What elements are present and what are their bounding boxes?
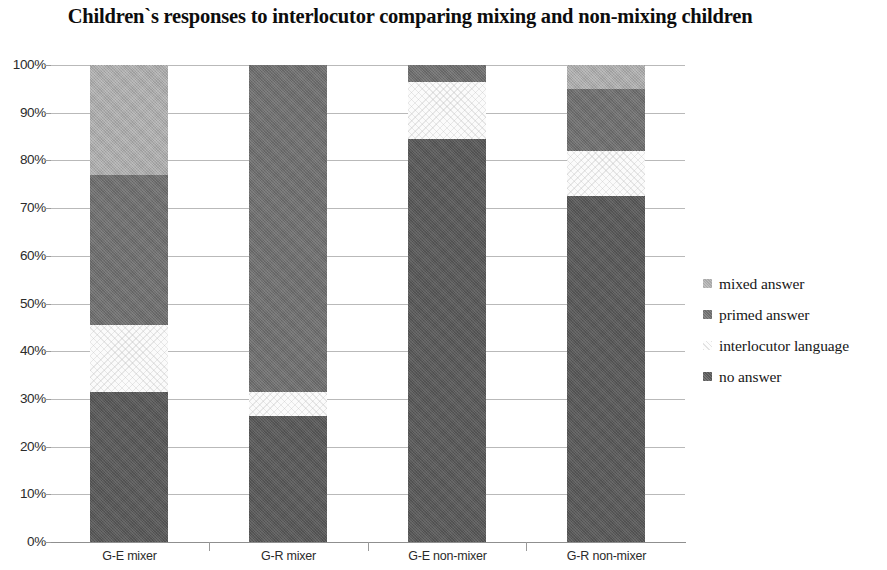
legend-swatch-icon xyxy=(703,341,712,350)
bar-column[interactable] xyxy=(567,65,645,542)
bar-segment-interlocutor-language[interactable] xyxy=(90,325,168,392)
bar-segment-interlocutor-language[interactable] xyxy=(249,392,327,416)
bar-segment-no-answer[interactable] xyxy=(408,139,486,542)
y-axis-tick-label: 0% xyxy=(2,534,46,549)
y-axis-tick-label: 70% xyxy=(2,200,46,215)
legend-swatch-icon xyxy=(703,372,712,381)
x-axis-category-label: G-E mixer xyxy=(50,549,209,569)
chart-legend: mixed answerprimed answerinterlocutor la… xyxy=(703,268,887,392)
legend-label: no answer xyxy=(719,368,781,386)
y-axis-tick xyxy=(45,447,51,448)
bar-segment-mixed-answer[interactable] xyxy=(567,65,645,89)
bar-segment-interlocutor-language[interactable] xyxy=(408,82,486,139)
y-axis-tick-label: 50% xyxy=(2,296,46,311)
x-axis-tick xyxy=(526,542,527,551)
legend-item-no-answer[interactable]: no answer xyxy=(703,361,887,392)
y-axis-tick-label: 10% xyxy=(2,486,46,501)
y-axis-tick xyxy=(45,304,51,305)
y-axis-tick xyxy=(45,208,51,209)
y-axis-tick xyxy=(45,399,51,400)
bar-segment-primed-answer[interactable] xyxy=(249,65,327,392)
plot-area xyxy=(50,65,685,542)
bar-column[interactable] xyxy=(90,65,168,542)
legend-swatch-icon xyxy=(703,310,712,319)
legend-label: primed answer xyxy=(719,306,809,324)
y-axis-tick-label: 40% xyxy=(2,343,46,358)
x-axis-category-label: G-R mixer xyxy=(209,549,368,569)
x-axis-tick xyxy=(368,542,369,551)
x-axis-tick xyxy=(209,542,210,551)
bar-segment-no-answer[interactable] xyxy=(567,196,645,542)
y-axis-tick-label: 90% xyxy=(2,105,46,120)
bar-column[interactable] xyxy=(408,65,486,542)
y-axis-tick xyxy=(45,542,51,543)
x-axis-category-label: G-E non-mixer xyxy=(368,549,527,569)
legend-item-interlocutor-language[interactable]: interlocutor language xyxy=(703,330,887,361)
legend-item-mixed-answer[interactable]: mixed answer xyxy=(703,268,887,299)
legend-label: interlocutor language xyxy=(719,337,849,355)
y-axis-tick xyxy=(45,351,51,352)
y-axis-tick xyxy=(45,256,51,257)
y-axis-tick-label: 80% xyxy=(2,152,46,167)
y-axis-labels: 100%90%80%70%60%50%40%30%20%10%0% xyxy=(0,65,46,543)
y-axis-tick xyxy=(45,494,51,495)
legend-label: mixed answer xyxy=(719,275,804,293)
bar-segment-primed-answer[interactable] xyxy=(90,175,168,325)
bar-segment-primed-answer[interactable] xyxy=(567,89,645,151)
legend-swatch-icon xyxy=(703,279,712,288)
y-axis-tick xyxy=(45,113,51,114)
bar-segment-mixed-answer[interactable] xyxy=(90,65,168,175)
legend-item-primed-answer[interactable]: primed answer xyxy=(703,299,887,330)
y-axis-tick xyxy=(45,65,51,66)
bar-segment-no-answer[interactable] xyxy=(249,416,327,542)
y-axis-tick-label: 100% xyxy=(2,57,46,72)
y-axis-tick-label: 30% xyxy=(2,391,46,406)
bar-segment-primed-answer[interactable] xyxy=(408,65,486,82)
chart-container: Children`s responses to interlocutor com… xyxy=(0,0,887,570)
x-axis-labels: G-E mixerG-R mixerG-E non-mixerG-R non-m… xyxy=(50,549,686,569)
y-axis-tick xyxy=(45,160,51,161)
bar-column[interactable] xyxy=(249,65,327,542)
y-axis-tick-label: 20% xyxy=(2,439,46,454)
y-axis-tick-label: 60% xyxy=(2,248,46,263)
chart-title: Children`s responses to interlocutor com… xyxy=(60,2,760,30)
bar-segment-interlocutor-language[interactable] xyxy=(567,151,645,196)
x-axis-category-label: G-R non-mixer xyxy=(527,549,686,569)
bar-segment-no-answer[interactable] xyxy=(90,392,168,542)
